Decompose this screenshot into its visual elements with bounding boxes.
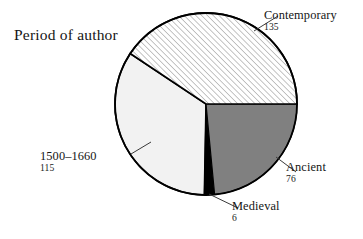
pie-label-1500-1660-name: 1500–1660 [40, 150, 97, 163]
pie-label-medieval: Medieval 6 [232, 200, 280, 224]
pie-chart-figure: Period of author Contemporary 135 1500–1… [0, 0, 363, 239]
pie-label-ancient-name: Ancient [286, 161, 326, 174]
pie-slice-ancient[interactable] [206, 104, 297, 194]
pie-label-contemporary-name: Contemporary [264, 9, 337, 22]
pie-label-contemporary-value: 135 [264, 22, 337, 32]
pie-label-1500-1660-value: 115 [40, 163, 97, 173]
pie-label-1500-1660: 1500–1660 115 [40, 150, 97, 174]
pie-label-medieval-name: Medieval [232, 200, 280, 213]
pie-label-medieval-value: 6 [232, 213, 280, 223]
pie-label-ancient: Ancient 76 [286, 161, 326, 185]
pie-label-contemporary: Contemporary 135 [264, 9, 337, 33]
pie-label-ancient-value: 76 [286, 174, 326, 184]
chart-title: Period of author [14, 26, 118, 44]
